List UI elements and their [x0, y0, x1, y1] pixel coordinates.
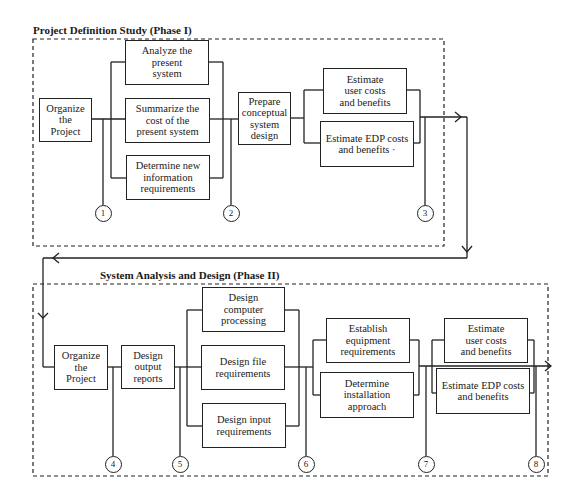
milestone-4: 4 — [105, 456, 122, 473]
p1-determine-info-requirements: Determine new information requirements — [126, 155, 210, 200]
p2-design-output-reports: Design output reports — [121, 345, 175, 389]
milestone-5: 5 — [172, 456, 189, 473]
p2-design-file-requirements: Design file requirements — [201, 345, 285, 390]
p1-analyze-present-system: Analyze the present system — [125, 40, 209, 85]
p1-organize-project: Organize the Project — [39, 98, 92, 142]
phase1-title: Project Definition Study (Phase I) — [33, 24, 192, 36]
connector-lines — [0, 0, 582, 499]
p2-estimate-edp-costs: Estimate EDP costs and benefits — [436, 368, 530, 414]
p2-design-input-requirements: Design input requirements — [202, 403, 286, 448]
milestone-3: 3 — [417, 205, 434, 222]
p1-prepare-conceptual-design: Prepare conceptual system design — [238, 92, 291, 145]
milestone-6: 6 — [298, 456, 315, 473]
p2-determine-installation-approach: Determine installation approach — [320, 372, 414, 418]
phase2-title: System Analysis and Design (Phase II) — [100, 269, 279, 281]
p1-estimate-user-costs: Estimate user costs and benefits — [323, 68, 407, 114]
p1-summarize-cost: Summarize the cost of the present system — [125, 98, 210, 143]
p2-design-computer-processing: Design computer processing — [202, 287, 285, 332]
p2-establish-equipment-requirements: Establish equipment requirements — [326, 318, 410, 363]
p2-estimate-user-costs: Estimate user costs and benefits — [444, 318, 528, 363]
milestone-7: 7 — [418, 456, 435, 473]
milestone-2: 2 — [223, 205, 240, 222]
milestone-1: 1 — [95, 205, 112, 222]
p1-estimate-edp-costs: Estimate EDP costs and benefits · — [320, 121, 414, 167]
milestone-8: 8 — [528, 456, 545, 473]
p2-organize-project: Organize the Project — [54, 345, 108, 390]
